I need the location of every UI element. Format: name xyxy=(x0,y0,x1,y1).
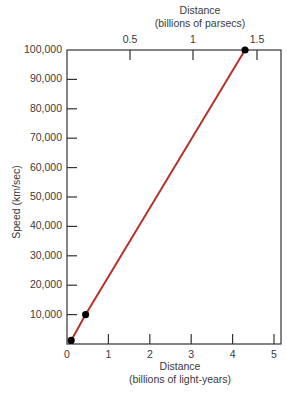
data-line xyxy=(71,50,245,340)
x-tick-label: 0 xyxy=(47,348,87,360)
y-tick-label: 10,000 xyxy=(30,308,62,320)
x2-tick-label: 1 xyxy=(173,33,213,45)
y-tick-label: 60,000 xyxy=(30,161,62,173)
x2-tick-label: 0.5 xyxy=(110,33,150,45)
y-tick-label: 80,000 xyxy=(30,102,62,114)
plot-frame xyxy=(67,50,281,344)
bottom-axis-title: Distance (billions of light-years) xyxy=(110,360,250,386)
axes xyxy=(67,50,281,344)
x-tick-label: 3 xyxy=(171,348,211,360)
x-tick-label: 5 xyxy=(254,348,287,360)
data-series xyxy=(68,46,249,344)
x-tick-label: 1 xyxy=(88,348,128,360)
x2-tick-label: 1.5 xyxy=(237,33,277,45)
y-tick-label: 100,000 xyxy=(24,43,62,55)
y-tick-label: 30,000 xyxy=(30,249,62,261)
y-tick-label: 40,000 xyxy=(30,219,62,231)
data-point xyxy=(82,311,89,318)
data-point xyxy=(68,337,75,344)
x-tick-label: 4 xyxy=(213,348,253,360)
y-tick-label: 20,000 xyxy=(30,278,62,290)
x-tick-label: 2 xyxy=(130,348,170,360)
data-point xyxy=(241,46,248,53)
y-axis-title: Speed (km/sec) xyxy=(10,162,22,242)
y-tick-label: 70,000 xyxy=(30,131,62,143)
ticks xyxy=(67,50,274,344)
top-axis-title: Distance (billions of parsecs) xyxy=(140,4,260,30)
y-tick-label: 50,000 xyxy=(30,190,62,202)
y-tick-label: 90,000 xyxy=(30,72,62,84)
